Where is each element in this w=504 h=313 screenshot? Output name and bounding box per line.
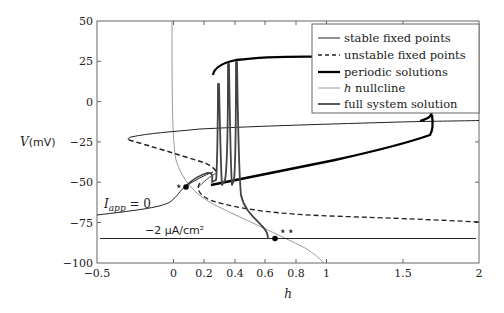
fixed-point-star-marker [183,184,189,190]
fixed-point-double-star-marker [272,236,278,242]
y-tick-label: −25 [70,136,93,149]
legend-label: periodic solutions [344,65,448,79]
iapp-label: Iapp = 0 [103,197,151,213]
current-label: −2 µA/cm² [145,224,204,237]
y-tick-label: 50 [79,15,93,28]
phase-plane-chart: −0.5 0 0.2 0.4 0.6 0.8 1 1.5 2 h 50 25 0… [0,0,504,313]
legend: stable fixed points unstable fixed point… [312,24,479,113]
star-label: ⋆ [175,179,183,193]
legend-label: h nullcline [344,81,405,95]
x-tick-label: 2 [476,267,483,280]
full-system-solution [186,62,268,239]
legend-label: unstable fixed points [344,48,466,62]
legend-label: full system solution [344,97,458,111]
y-tick-label: 25 [79,55,93,68]
periodic-lower-branch [211,115,433,185]
stable-upper-branch [131,121,479,138]
x-tick-label: 0 [170,267,177,280]
y-tick-label: −50 [70,176,93,189]
y-axis-label: V(mV) [20,135,56,149]
y-tick-label: −75 [70,217,93,230]
y-tick-label: 0 [86,96,93,109]
double-star-label: ⋆⋆ [279,224,295,238]
x-tick-label: 0.2 [195,267,213,280]
y-tick-label: −100 [63,257,93,270]
x-tick-label: 0.6 [256,267,274,280]
x-tick-label: 0.4 [226,267,244,280]
x-axis-label: h [284,287,292,301]
unstable-middle-branch [129,140,216,172]
x-tick-label: 1 [323,267,330,280]
x-tick-label: 1.5 [394,267,412,280]
legend-label: stable fixed points [344,31,451,45]
x-tick-label: 0.8 [287,267,305,280]
